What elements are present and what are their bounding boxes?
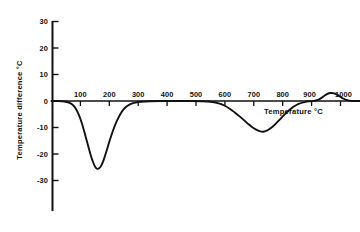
y-tick-label-neg20: -20	[37, 150, 48, 159]
y-tick-label-neg30: -30	[37, 176, 48, 185]
chart-svg: 30 20 10 0 -10 -20 -30 100 200 300 400 5…	[0, 0, 360, 232]
x-tick-label-500: 500	[190, 90, 203, 99]
x-tick-label-200: 200	[103, 90, 116, 99]
x-tick-label-600: 600	[219, 90, 232, 99]
dta-chart: 30 20 10 0 -10 -20 -30 100 200 300 400 5…	[0, 0, 360, 232]
y-tick-label-20: 20	[40, 44, 48, 53]
x-tick-label-800: 800	[276, 90, 289, 99]
y-tick-label-30: 30	[40, 17, 48, 26]
x-tick-label-300: 300	[132, 90, 145, 99]
dta-curve	[52, 93, 360, 169]
y-axis-title: Temperature difference °C	[15, 60, 24, 160]
x-tick-label-400: 400	[161, 90, 174, 99]
y-tick-label-neg10: -10	[37, 123, 48, 132]
x-axis-title: Temperature °C	[264, 107, 323, 116]
y-tick-label-0: 0	[44, 97, 48, 106]
y-tick-label-10: 10	[40, 70, 48, 79]
x-tick-label-700: 700	[247, 90, 260, 99]
x-tick-label-100: 100	[74, 90, 87, 99]
x-tick-label-900: 900	[303, 90, 316, 99]
